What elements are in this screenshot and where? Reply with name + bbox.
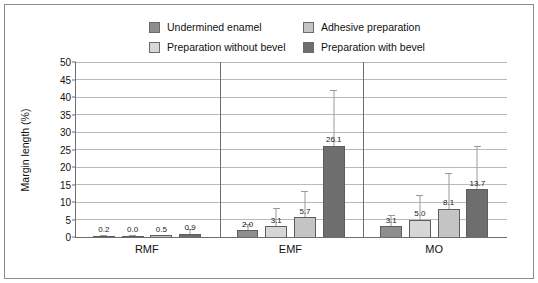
legend-item-label: Undermined enamel: [167, 22, 262, 33]
error-bar-cap: [474, 146, 481, 147]
y-tick-mark: [72, 97, 76, 98]
legend-item-label: Preparation without bevel: [167, 42, 286, 53]
legend-item-label: Adhesive preparation: [321, 22, 420, 33]
bar-value-label: 5.0: [414, 209, 425, 218]
bar-value-label: 8.1: [443, 198, 454, 207]
y-tick-mark: [72, 62, 76, 63]
bar-value-label: 26.1: [326, 135, 342, 144]
y-tick-label: 50: [60, 57, 71, 68]
y-tick-label: 45: [60, 74, 71, 85]
bar-slot: 0.5: [150, 62, 172, 237]
bar-slot: 5.0: [409, 62, 431, 237]
group-separator: [220, 62, 221, 237]
y-tick-mark: [72, 202, 76, 203]
bar[interactable]: [179, 234, 201, 237]
bar-value-label: 3.1: [386, 216, 397, 225]
legend-item-preparation-without-bevel: Preparation without bevel: [149, 40, 286, 55]
legend-swatch-icon: [149, 42, 160, 53]
legend-item-label: Preparation with bevel: [321, 42, 425, 53]
bar-slot: 0.9: [179, 62, 201, 237]
bar-value-label: 0.5: [156, 225, 167, 234]
bar[interactable]: [237, 230, 259, 237]
bar[interactable]: [122, 236, 144, 238]
bar[interactable]: [93, 236, 115, 238]
y-tick-label: 25: [60, 144, 71, 155]
plot-area: 051015202530354045500.20.00.50.92.03.15.…: [75, 62, 507, 238]
bar-slot: 26.1: [323, 62, 345, 237]
bar[interactable]: [466, 189, 488, 237]
bar-value-label: 13.7: [470, 179, 486, 188]
bar[interactable]: [294, 217, 316, 237]
y-tick-mark: [72, 114, 76, 115]
bar[interactable]: [409, 220, 431, 238]
bar[interactable]: [323, 146, 345, 237]
y-tick-mark: [72, 184, 76, 185]
y-tick-label: 20: [60, 162, 71, 173]
bar-slot: 2.0: [237, 62, 259, 237]
y-tick-label: 10: [60, 197, 71, 208]
bar-slot: 3.1: [380, 62, 402, 237]
bar-value-label: 5.7: [299, 207, 310, 216]
bar[interactable]: [265, 226, 287, 237]
bar[interactable]: [438, 209, 460, 237]
chart-legend: Undermined enamel Adhesive preparation P…: [135, 19, 465, 57]
y-tick-label: 15: [60, 179, 71, 190]
x-axis-group-label: MO: [362, 243, 506, 255]
error-bar-cap: [445, 173, 452, 174]
legend-item-preparation-with-bevel: Preparation with bevel: [303, 40, 425, 55]
y-tick-label: 35: [60, 109, 71, 120]
bar-value-label: 0.2: [98, 225, 109, 234]
bar-slot: 8.1: [438, 62, 460, 237]
y-tick-label: 40: [60, 92, 71, 103]
y-tick-mark: [72, 237, 76, 238]
error-bar-cap: [330, 90, 337, 91]
legend-item-undermined-enamel: Undermined enamel: [149, 20, 262, 35]
legend-swatch-icon: [149, 22, 160, 33]
group-separator: [363, 62, 364, 237]
y-tick-mark: [72, 149, 76, 150]
bar-slot: 3.1: [265, 62, 287, 237]
bar-value-label: 2.0: [242, 220, 253, 229]
bar-slot: 0.2: [93, 62, 115, 237]
y-tick-label: 30: [60, 127, 71, 138]
y-tick-mark: [72, 167, 76, 168]
y-tick-mark: [72, 219, 76, 220]
error-bar-cap: [416, 195, 423, 196]
chart-figure: Undermined enamel Adhesive preparation P…: [4, 4, 534, 279]
bar-slot: 13.7: [466, 62, 488, 237]
y-tick-mark: [72, 79, 76, 80]
bar-slot: 5.7: [294, 62, 316, 237]
x-axis-group-label: RMF: [75, 243, 219, 255]
y-tick-label: 0: [65, 232, 71, 243]
bar-value-label: 0.0: [127, 225, 138, 234]
y-tick-mark: [72, 132, 76, 133]
legend-swatch-icon: [303, 22, 314, 33]
bar[interactable]: [150, 235, 172, 237]
error-bar-cap: [301, 191, 308, 192]
legend-swatch-icon: [303, 42, 314, 53]
bar-value-label: 0.9: [184, 223, 195, 232]
error-bar-cap: [273, 208, 280, 209]
bar[interactable]: [380, 226, 402, 237]
bar-slot: 0.0: [122, 62, 144, 237]
x-axis-group-label: EMF: [219, 243, 363, 255]
y-axis-title: Margin length (%): [19, 62, 33, 238]
bar-value-label: 3.1: [271, 216, 282, 225]
y-tick-label: 5: [65, 214, 71, 225]
legend-item-adhesive-preparation: Adhesive preparation: [303, 20, 420, 35]
